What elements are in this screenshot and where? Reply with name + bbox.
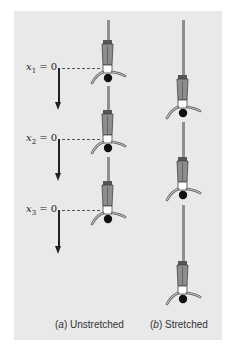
- position-label-x2: x2 = 0: [26, 132, 57, 146]
- down-arrow-icon: [58, 68, 60, 104]
- bungee-jumper-upside-down-icon: [165, 75, 203, 123]
- position-label-x1: x1 = 0: [26, 61, 57, 75]
- arrowhead-icon: [55, 102, 61, 110]
- bungee-jumper-upside-down-icon: [165, 261, 203, 309]
- bungee-jumper-upside-down-icon: [90, 40, 128, 88]
- arrowhead-icon: [55, 173, 61, 181]
- rope-segment: [182, 122, 185, 157]
- rope-segment: [107, 157, 110, 182]
- rope-segment: [107, 20, 110, 40]
- caption-stretched: (b) Stretched: [150, 319, 208, 330]
- rope-segment: [107, 86, 110, 111]
- bungee-jumper-upside-down-icon: [165, 157, 203, 205]
- caption-unstretched: (a) Unstretched: [55, 319, 124, 330]
- bungee-jumper-upside-down-icon: [90, 181, 128, 229]
- bungee-jumper-upside-down-icon: [90, 110, 128, 158]
- rope-segment: [182, 20, 185, 75]
- position-label-x3: x3 = 0: [26, 203, 57, 217]
- arrowhead-icon: [55, 246, 61, 254]
- down-arrow-icon: [58, 210, 60, 248]
- rope-segment: [182, 205, 185, 261]
- down-arrow-icon: [58, 139, 60, 175]
